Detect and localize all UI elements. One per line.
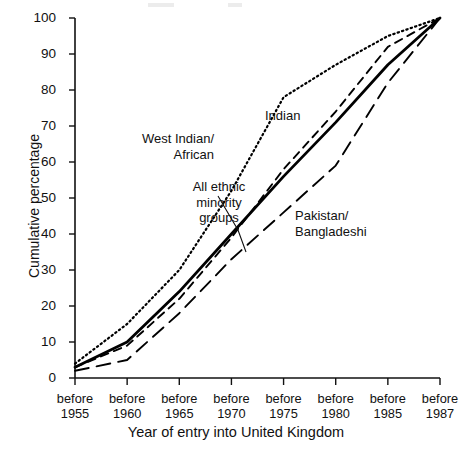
x-axis-title: Year of entry into United Kingdom: [0, 424, 472, 440]
x-tick-label-line1: before: [370, 391, 406, 406]
x-tick-label-line1: before: [422, 391, 458, 406]
y-tick-label: 100: [22, 11, 56, 25]
series-label-line1: Pakistan/: [295, 208, 348, 223]
series-label-pakistan-bangladeshi: Pakistan/ Bangladeshi: [295, 208, 405, 239]
x-tick-label-line1: before: [213, 391, 249, 406]
x-tick-label-line1: before: [57, 391, 93, 406]
series-label-line2: minority: [196, 195, 242, 210]
series-label-west-indian-african: West Indian/ African: [118, 131, 214, 162]
series-label-line2: Bangladeshi: [295, 224, 367, 239]
x-tick-label-line2: 1987: [409, 406, 471, 421]
series-label-line1: Indian: [265, 108, 300, 123]
y-tick-label: 90: [22, 47, 56, 61]
series-label-line1: All ethnic: [193, 179, 246, 194]
x-tick-label-line1: before: [318, 391, 354, 406]
chart-figure: 1009080706050403020100 before1955before1…: [0, 0, 472, 451]
series-label-indian: Indian: [265, 108, 335, 124]
y-axis-title: Cumulative percentage: [26, 96, 42, 316]
series-label-all-ethnic-minority-groups: All ethnic minority groups: [177, 179, 261, 226]
series-label-line2: African: [174, 147, 214, 162]
y-tick-label: 0: [22, 371, 56, 385]
y-tick-label: 80: [22, 83, 56, 97]
x-tick-label-line1: before: [161, 391, 197, 406]
series-label-line3: groups: [199, 210, 239, 225]
x-tick-label: before1987: [409, 391, 471, 421]
x-tick-label-line1: before: [265, 391, 301, 406]
x-tick-label-line1: before: [109, 391, 145, 406]
series-label-line1: West Indian/: [142, 131, 214, 146]
y-tick-label: 10: [22, 335, 56, 349]
